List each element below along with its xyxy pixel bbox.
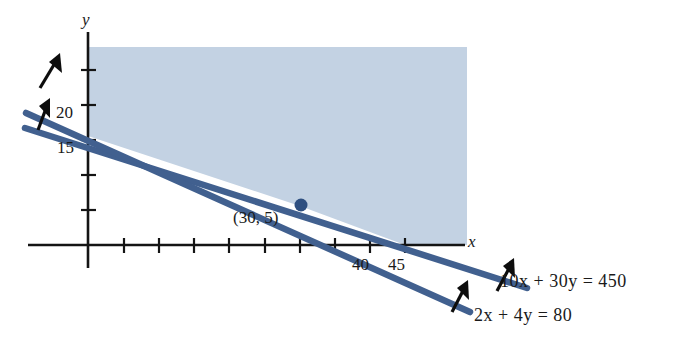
graph-figure: y x 20 15 40 45 (30, 5) 10x + 30y = 450 … [0, 0, 674, 351]
intersection-point-label: (30, 5) [233, 208, 278, 228]
direction-arrow-left-upper [40, 53, 62, 88]
equation-label-line1: 10x + 30y = 450 [500, 271, 627, 292]
x-axis-label: x [468, 232, 476, 252]
x-tick-label-40: 40 [352, 255, 369, 275]
equation-label-line2: 2x + 4y = 80 [474, 305, 572, 326]
y-tick-label-15: 15 [57, 138, 74, 158]
y-tick-label-20: 20 [56, 103, 73, 123]
plot-canvas [0, 0, 674, 351]
y-axis-label: y [82, 10, 90, 30]
x-tick-label-45: 45 [388, 255, 405, 275]
intersection-point-dot [295, 199, 308, 212]
